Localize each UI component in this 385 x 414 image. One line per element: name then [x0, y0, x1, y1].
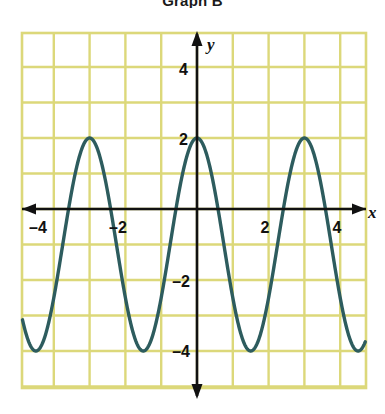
y-tick-label-minus4: –4: [172, 343, 190, 360]
x-tick-label-2: 2: [261, 219, 270, 236]
y-axis-arrow-down: [192, 384, 203, 399]
y-tick-label-2: 2: [179, 131, 188, 148]
y-tick-label-minus2: –2: [172, 273, 190, 290]
y-tick-label-4: 4: [179, 61, 188, 78]
x-tick-label-minus2: –2: [109, 219, 127, 236]
coordinate-plane: y x –4 –2 2 4 4 2 –2 –4: [0, 0, 385, 414]
y-axis-label: y: [205, 35, 215, 54]
grid: [22, 33, 366, 388]
graph-figure: Graph B y x –4 –2 2 4 4 2 –2: [0, 0, 385, 414]
plot-background: [22, 33, 366, 388]
x-tick-label-minus4: –4: [29, 219, 47, 236]
x-tick-label-4: 4: [333, 219, 342, 236]
x-axis-label: x: [367, 203, 377, 222]
